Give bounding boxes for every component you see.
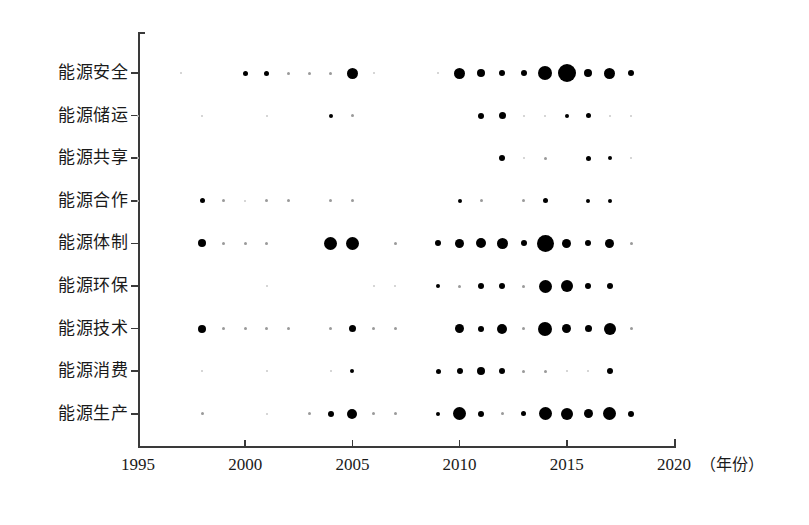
bubble-能源体制-2011: [476, 238, 486, 248]
bubble-能源安全-2005: [347, 68, 358, 79]
bubble-能源环保-2017: [607, 283, 613, 289]
bubble-能源消费-2016: [587, 370, 589, 372]
bubble-能源储运-2018: [630, 115, 632, 117]
bubble-能源安全-2004: [329, 72, 332, 75]
bubble-能源消费-2014: [544, 370, 547, 373]
bubble-能源技术-2006: [372, 327, 375, 330]
bubble-能源环保-2009: [436, 284, 440, 288]
bubble-能源技术-2011: [478, 326, 484, 332]
bubble-能源技术-2012: [497, 324, 507, 334]
y-axis-label-text: 能源储运: [8, 107, 128, 124]
y-axis-label-能源技术: 能源技术: [0, 320, 128, 337]
x-tick-2005: [352, 440, 354, 447]
bubble-能源合作-2014: [543, 198, 548, 203]
bubble-能源安全-2002: [287, 72, 290, 75]
bubble-能源共享-2013: [523, 157, 525, 159]
bubble-能源合作-2002: [287, 199, 290, 202]
bubble-能源技术-2010: [455, 324, 464, 333]
bubble-chart: 能源安全能源储运能源共享能源合作能源体制能源环保能源技术能源消费能源生产 199…: [0, 0, 809, 525]
bubble-能源安全-2013: [521, 70, 527, 76]
bubble-能源体制-2015: [562, 239, 571, 248]
bubble-能源储运-2015: [565, 114, 569, 118]
bubble-能源技术-2005: [349, 325, 356, 332]
bubble-能源生产-2014: [539, 407, 552, 420]
bubble-能源技术-2013: [522, 327, 525, 330]
bubble-能源储运-2012: [499, 112, 506, 119]
bubble-能源环保-2007: [394, 285, 396, 287]
bubble-能源环保-2010: [458, 285, 461, 288]
y-axis-label-能源体制: 能源体制: [0, 234, 128, 251]
bubble-能源储运-2005: [351, 114, 354, 117]
bubble-能源体制-2018: [630, 242, 633, 245]
y-tick-7: [131, 370, 139, 372]
bubble-能源生产-2005: [347, 409, 357, 419]
bubble-能源储运-2014: [544, 115, 546, 117]
bubble-能源安全-2001: [264, 71, 269, 76]
bubble-能源消费-2004: [330, 370, 332, 372]
bubble-能源体制-2017: [605, 239, 614, 248]
bubble-能源安全-2012: [499, 70, 505, 76]
bubble-能源储运-1995: [137, 115, 139, 117]
y-tick-6: [131, 328, 139, 330]
y-axis-line: [138, 32, 140, 447]
bubble-能源生产-1998: [201, 412, 204, 415]
bubble-能源技术-2015: [562, 324, 571, 333]
y-axis-label-text: 能源技术: [8, 320, 128, 337]
bubble-能源合作-1998: [200, 198, 205, 203]
y-axis-label-能源共享: 能源共享: [0, 149, 128, 166]
y-axis-label-text: 能源合作: [8, 192, 128, 209]
bubble-能源安全-2016: [584, 69, 592, 77]
x-axis-label-1995: 1995: [103, 455, 173, 475]
bubble-能源生产-2011: [478, 411, 484, 417]
x-axis-title: （年份）: [700, 455, 764, 475]
bubble-能源消费-1998: [201, 370, 203, 372]
bubble-能源环保-2015: [561, 280, 573, 292]
y-axis-label-能源储运: 能源储运: [0, 107, 128, 124]
bubble-能源生产-2016: [584, 409, 593, 418]
bubble-能源体制-2014: [537, 235, 554, 252]
bubble-能源生产-2007: [394, 412, 397, 415]
x-axis-label-2015: 2015: [532, 455, 602, 475]
y-axis-label-text: 能源体制: [8, 234, 128, 251]
bubble-能源生产-2012: [501, 412, 504, 415]
bubble-能源技术-2004: [329, 327, 332, 330]
y-axis-label-text: 能源安全: [8, 64, 128, 81]
bubble-能源合作-2004: [329, 199, 332, 202]
x-axis-right-cap: [674, 439, 676, 447]
bubble-能源合作-2013: [522, 199, 525, 202]
bubble-能源技术-1999: [222, 327, 225, 330]
bubble-能源消费-2010: [457, 368, 463, 374]
bubble-能源生产-2017: [603, 407, 616, 420]
bubble-能源合作-2005: [351, 199, 354, 202]
x-axis-line: [138, 446, 676, 448]
bubble-能源消费-2017: [607, 368, 613, 374]
x-axis-label-2005: 2005: [317, 455, 387, 475]
bubble-能源体制-1998: [198, 239, 206, 247]
bubble-能源合作-2017: [608, 199, 612, 203]
bubble-能源消费-2013: [522, 370, 525, 373]
bubble-能源共享-2016: [586, 156, 591, 161]
x-tick-2010: [459, 440, 461, 447]
bubble-能源技术-2016: [585, 325, 592, 332]
bubble-能源储运-1998: [201, 115, 203, 117]
bubble-能源合作-2010: [458, 199, 462, 203]
bubble-能源环保-2013: [522, 285, 525, 288]
bubble-能源安全-2003: [308, 72, 311, 75]
y-tick-4: [131, 243, 139, 245]
bubble-能源储运-2013: [523, 115, 525, 117]
bubble-能源消费-2005: [350, 369, 354, 373]
x-tick-2015: [566, 440, 568, 447]
bubble-能源合作-2016: [586, 199, 590, 203]
bubble-能源体制-2013: [521, 240, 527, 246]
bubble-能源技术-2014: [538, 322, 552, 336]
bubble-能源安全-2006: [373, 72, 375, 74]
y-axis-label-能源安全: 能源安全: [0, 64, 128, 81]
bubble-能源安全-2000: [243, 71, 248, 76]
bubble-能源生产-2004: [328, 411, 334, 417]
bubble-能源体制-2005: [346, 237, 359, 250]
bubble-能源体制-2009: [435, 240, 441, 246]
bubble-能源环保-2006: [373, 285, 375, 287]
bubble-能源技术-2007: [394, 327, 397, 330]
y-axis-label-text: 能源共享: [8, 149, 128, 166]
bubble-能源安全-2014: [538, 66, 552, 80]
